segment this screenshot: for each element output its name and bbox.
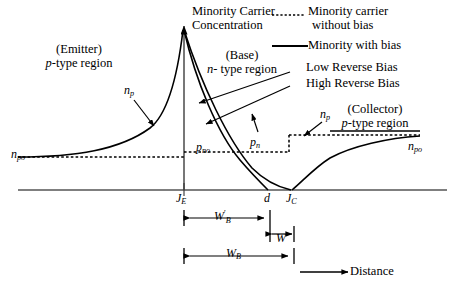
legend-samples xyxy=(272,15,308,46)
collector-np-curve xyxy=(292,136,420,190)
region-label-base: (Base) n- type region xyxy=(196,48,288,76)
junction-label-je: JE xyxy=(176,192,186,206)
legend-without-bias-line1: Minority carrier xyxy=(308,4,388,18)
legend-item-without-bias: Minority carrier without bias xyxy=(308,4,388,32)
legend-item-with-bias: Minority with bias xyxy=(308,38,401,52)
annotation-high-reverse-bias: High Reverse Bias xyxy=(306,76,400,90)
leader-np-emitter xyxy=(134,100,154,126)
dimension-label-w: W xyxy=(276,232,286,245)
leader-low-reverse-bias xyxy=(199,72,290,103)
y-axis-label-line1: Minority Carrier xyxy=(192,4,275,18)
curve-label-pn-base: pn xyxy=(250,136,260,150)
curve-label-pno-base: pno xyxy=(196,141,210,155)
legend-without-bias-line2: without bias xyxy=(312,18,388,32)
leader-high-reverse-bias xyxy=(206,86,290,124)
collector-line2: p-type region xyxy=(328,116,422,130)
junction-label-d: d xyxy=(264,192,270,205)
base-line2: n- type region xyxy=(196,62,288,76)
junction-label-jc: JC xyxy=(286,192,297,206)
dimension-label-wb-prime: W′B xyxy=(214,209,231,225)
curve-label-np-emitter: np xyxy=(124,84,134,98)
emitter-line1: (Emitter) xyxy=(14,42,144,56)
collector-line1: (Collector) xyxy=(328,102,422,116)
x-axis-label: Distance xyxy=(350,264,394,278)
leader-lines xyxy=(134,72,322,136)
leader-np-collector xyxy=(304,122,322,136)
dimension-label-wb: WB xyxy=(226,247,241,261)
emitter-line2: p-type region xyxy=(14,56,144,70)
leader-pn xyxy=(252,114,258,132)
annotation-low-reverse-bias: Low Reverse Bias xyxy=(306,60,398,74)
region-label-collector: (Collector) p-type region xyxy=(328,102,422,130)
curve-label-np-collector: np xyxy=(320,108,330,122)
region-label-emitter: (Emitter) p-type region xyxy=(14,42,144,70)
base-line1: (Base) xyxy=(196,48,288,62)
y-axis-label-line2: Concentration xyxy=(192,18,275,32)
curve-label-npo-left: npo xyxy=(11,148,25,162)
y-axis-label: Minority Carrier Concentration xyxy=(192,4,275,32)
dimension-lines xyxy=(184,210,348,272)
curve-label-npo-right: npo xyxy=(408,140,422,154)
